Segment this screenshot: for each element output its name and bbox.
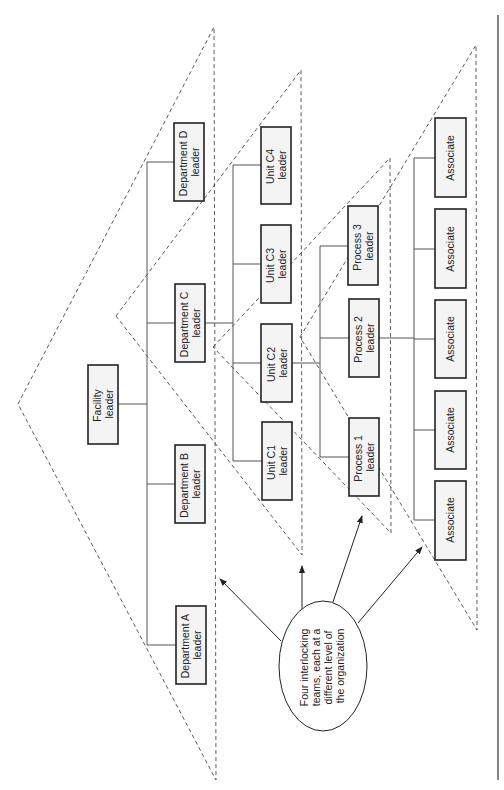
svg-text:Associate: Associate <box>444 497 456 543</box>
node-unit-c3-leader: Unit C3 leader <box>261 225 291 303</box>
node-associate: Associate <box>435 300 466 378</box>
svg-text:Unit C1 leader: Unit C1 leader <box>265 442 289 480</box>
node-department-b-leader: Department B leader <box>175 445 205 523</box>
node-unit-c4-leader: Unit C4 leader <box>261 127 291 204</box>
svg-text:Associate: Associate <box>444 135 456 181</box>
svg-text:Four interlocking teams,: Four interlocking teams, each at a diffe… <box>298 626 346 707</box>
callout-note: Four interlocking teams, each at a diffe… <box>279 601 367 731</box>
team-triangles <box>18 27 477 780</box>
org-chart-diagram: Facility leader Department D leader Depa… <box>0 0 504 790</box>
node-process-3-leader: Process 3 leader <box>348 206 378 285</box>
arrow-to-unit-c2-team <box>333 516 362 602</box>
node-unit-c2-leader: Unit C2 leader <box>261 324 292 402</box>
node-associate: Associate <box>435 391 466 469</box>
svg-text:Associate: Associate <box>444 316 456 362</box>
node-process-1-leader: Process 1 leader <box>349 418 379 496</box>
svg-text:Associate: Associate <box>444 407 456 453</box>
svg-text:Unit C3 leader: Unit C3 leader <box>264 245 288 283</box>
node-department-c-leader: Department C leader <box>175 284 205 362</box>
svg-text:Facility leader: Facility leader <box>91 386 115 422</box>
arrow-to-process-2-team <box>358 547 422 623</box>
node-unit-c1-leader: Unit C1 leader <box>262 422 292 500</box>
node-department-d-leader: Department D leader <box>174 123 204 201</box>
node-facility-leader: Facility leader <box>88 365 118 444</box>
node-associate: Associate <box>435 118 466 197</box>
svg-text:Unit C2 leader: Unit C2 leader <box>265 344 289 382</box>
node-associate: Associate <box>435 481 466 560</box>
svg-text:Unit C4 leader: Unit C4 leader <box>264 146 288 184</box>
svg-text:Associate: Associate <box>444 226 456 272</box>
node-process-2-leader: Process 2 leader <box>349 299 379 377</box>
node-department-a-leader: Department A leader <box>176 606 206 684</box>
arrow-to-facility-team <box>220 579 281 641</box>
node-associate: Associate <box>435 209 466 288</box>
